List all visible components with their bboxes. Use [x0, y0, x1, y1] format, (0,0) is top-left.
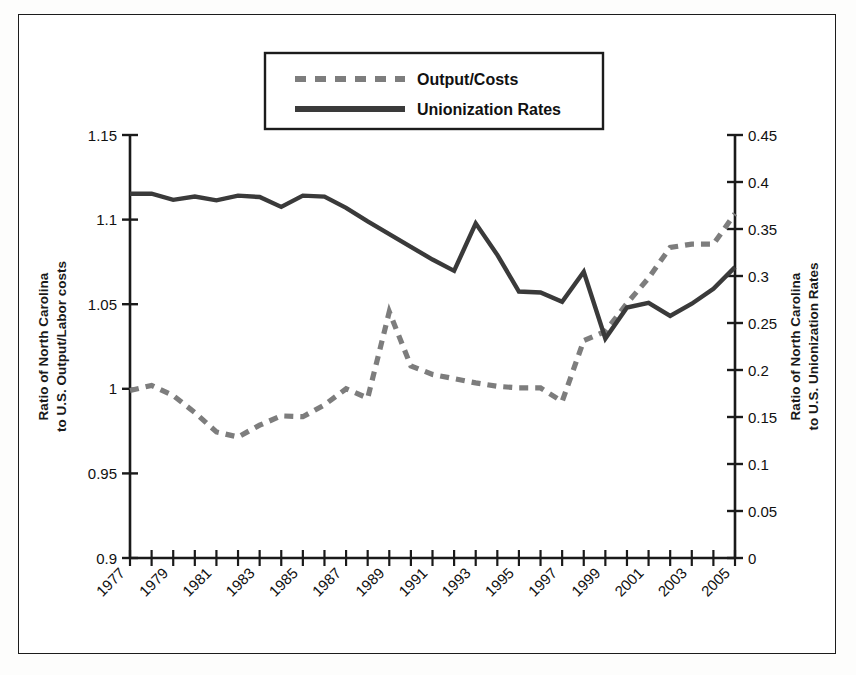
left-axis-tick-label: 0.9	[96, 550, 117, 567]
x-axis-tick-label: 1997	[525, 564, 561, 600]
svg-text:1979: 1979	[136, 564, 172, 600]
legend-label: Unionization Rates	[417, 101, 561, 118]
svg-text:1985: 1985	[265, 564, 301, 600]
left-axis-title: Ratio of North Carolina	[36, 272, 51, 420]
svg-text:1993: 1993	[438, 564, 474, 600]
svg-text:1981: 1981	[179, 564, 215, 600]
left-axis-tick-label: 1.15	[88, 127, 117, 144]
right-axis-tick-label: 0.35	[748, 221, 777, 238]
right-axis-tick-label: 0.45	[748, 127, 777, 144]
x-axis-tick-label: 1981	[179, 564, 215, 600]
right-axis-tick-label: 0.25	[748, 315, 777, 332]
left-axis-tick-label: 1	[109, 380, 117, 397]
chart-figure: 0.90.9511.051.11.1500.050.10.150.20.250.…	[0, 0, 856, 675]
right-axis-tick-label: 0.3	[748, 268, 769, 285]
legend-label: Output/Costs	[417, 71, 518, 88]
svg-text:2003: 2003	[654, 564, 690, 600]
x-axis-tick-label: 1983	[222, 564, 258, 600]
x-axis-tick-label: 1995	[481, 564, 517, 600]
left-axis-tick-label: 0.95	[88, 465, 117, 482]
right-axis-tick-label: 0.2	[748, 362, 769, 379]
x-axis-tick-label: 2001	[611, 564, 647, 600]
x-axis-tick-label: 1999	[568, 564, 604, 600]
right-axis-title: Ratio of North Carolina	[788, 272, 803, 420]
svg-text:1995: 1995	[481, 564, 517, 600]
x-axis-tick-label: 1985	[265, 564, 301, 600]
svg-text:1987: 1987	[309, 564, 345, 600]
left-axis-tick-label: 1.05	[88, 296, 117, 313]
x-axis-tick-label: 1991	[395, 564, 431, 600]
right-axis-title-line2: to U.S. Unionization Rates	[806, 262, 821, 430]
right-axis-tick-label: 0.15	[748, 409, 777, 426]
chart-canvas: 0.90.9511.051.11.1500.050.10.150.20.250.…	[0, 0, 856, 675]
x-axis-tick-label: 2005	[698, 564, 734, 600]
svg-text:1989: 1989	[352, 564, 388, 600]
x-axis-tick-label: 1989	[352, 564, 388, 600]
left-axis-title-line2: to U.S. Output/Labor costs	[54, 261, 69, 432]
left-axis-tick-label: 1.1	[96, 211, 117, 228]
x-axis-tick-label: 1993	[438, 564, 474, 600]
plot-area-wrapper: 0.90.9511.051.11.1500.050.10.150.20.250.…	[0, 0, 856, 675]
x-axis-tick-label: 1987	[309, 564, 345, 600]
svg-text:1997: 1997	[525, 564, 561, 600]
x-axis-tick-label: 1979	[136, 564, 172, 600]
x-axis-tick-label: 1977	[93, 564, 129, 600]
svg-text:1999: 1999	[568, 564, 604, 600]
series-line-unionization-rates	[130, 194, 735, 339]
svg-text:1991: 1991	[395, 564, 431, 600]
series-line-output-costs	[130, 214, 735, 437]
svg-text:1977: 1977	[93, 564, 129, 600]
svg-text:2001: 2001	[611, 564, 647, 600]
x-axis-tick-label: 2003	[654, 564, 690, 600]
svg-text:1983: 1983	[222, 564, 258, 600]
svg-text:2005: 2005	[698, 564, 734, 600]
right-axis-tick-label: 0.05	[748, 503, 777, 520]
right-axis-tick-label: 0	[748, 550, 756, 567]
right-axis-tick-label: 0.4	[748, 174, 769, 191]
right-axis-tick-label: 0.1	[748, 456, 769, 473]
